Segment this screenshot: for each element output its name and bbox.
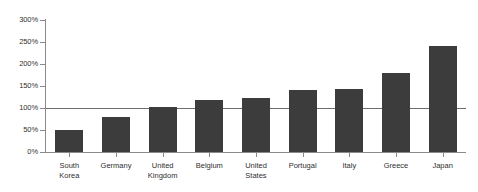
y-axis-tick <box>40 108 46 109</box>
x-axis-category-label: Belgium <box>186 161 233 171</box>
x-axis-category-label: Germany <box>93 161 140 171</box>
bar <box>242 98 270 152</box>
bar <box>289 90 317 152</box>
x-axis-category-label: United Kingdom <box>139 161 186 180</box>
y-axis-tick <box>40 152 46 153</box>
y-axis-tick-label: 0% <box>0 148 38 156</box>
y-axis-tick-label: 100% <box>0 104 38 112</box>
x-axis-category-label: Italy <box>326 161 373 171</box>
x-axis-tick <box>349 152 350 157</box>
y-axis-tick <box>40 86 46 87</box>
x-axis-category-label: South Korea <box>46 161 93 180</box>
x-axis-tick <box>163 152 164 157</box>
y-axis-tick <box>40 20 46 21</box>
x-axis-tick <box>396 152 397 157</box>
y-axis-tick <box>40 130 46 131</box>
bar <box>102 117 130 152</box>
x-axis-tick <box>209 152 210 157</box>
x-axis-tick <box>116 152 117 157</box>
bar <box>382 73 410 152</box>
x-axis-tick <box>69 152 70 157</box>
x-axis-tick <box>256 152 257 157</box>
y-axis-tick <box>40 42 46 43</box>
x-axis-category-label: Japan <box>419 161 466 171</box>
y-axis-tick-label: 300% <box>0 16 38 24</box>
bar <box>429 46 457 152</box>
x-axis-category-label: United States <box>233 161 280 180</box>
x-axis-category-label: Portugal <box>279 161 326 171</box>
x-axis-tick <box>443 152 444 157</box>
y-axis-tick <box>40 64 46 65</box>
y-axis-tick-label: 200% <box>0 60 38 68</box>
bar-chart: 0%50%100%150%200%250%300% South KoreaGer… <box>0 0 478 192</box>
bar <box>55 130 83 152</box>
bar <box>149 107 177 152</box>
bar <box>195 100 223 152</box>
y-axis-tick-label: 250% <box>0 38 38 46</box>
y-axis-tick-label: 50% <box>0 126 38 134</box>
x-axis-category-label: Greece <box>373 161 420 171</box>
y-axis-tick-label: 150% <box>0 82 38 90</box>
bar <box>335 89 363 152</box>
x-axis-tick <box>303 152 304 157</box>
